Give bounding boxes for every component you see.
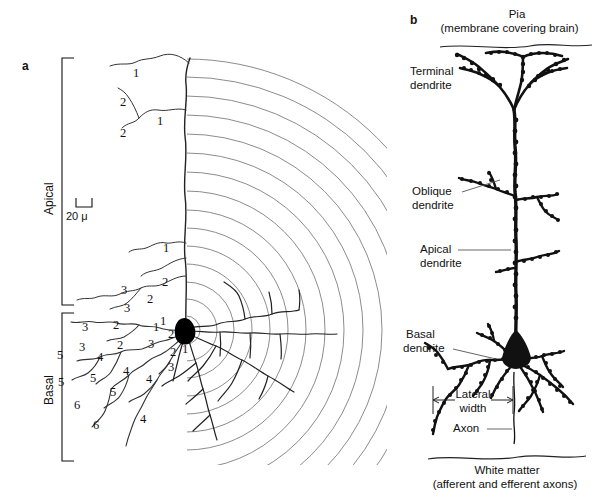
figure-neuron-morphology: a b Apical Basal 20 μ 121212323113223232… (0, 0, 607, 502)
pia-label-line1: Pia (442, 8, 592, 21)
branch-order-number: 6 (74, 398, 80, 413)
branch-order-number: 3 (121, 283, 127, 298)
branch-order-number: 4 (97, 350, 103, 365)
pia-label-line2: (membrane covering brain) (412, 22, 607, 35)
axon-label: Axon (453, 422, 479, 435)
apical-branches (77, 54, 189, 309)
branch-order-number: 1 (153, 320, 159, 335)
sholl-rings (0, 59, 457, 502)
basal-dendrites-b (425, 324, 573, 434)
branch-order-number: 2 (117, 338, 123, 353)
panel-letter-a: a (22, 60, 29, 73)
apical-dendrite-label-line1: Apical (420, 243, 451, 256)
branch-order-number: 2 (120, 95, 126, 110)
branch-order-number: 1 (163, 241, 169, 256)
branch-order-number: 5 (90, 371, 96, 386)
apical-dendrite-label-line2: dendrite (420, 257, 462, 270)
scale-bar-label: 20 μ (66, 210, 88, 222)
soma-panel-a (175, 318, 196, 345)
branch-order-number: 4 (123, 364, 129, 379)
branch-order-number: 6 (93, 418, 99, 433)
branch-order-number: 1 (160, 314, 166, 329)
branch-order-number: 2 (113, 318, 119, 333)
apical-bracket (62, 58, 74, 305)
branch-order-number: 5 (57, 348, 63, 363)
oblique-dendrites-b (459, 172, 559, 272)
axon-b (514, 372, 515, 444)
terminal-dendrite-label-line2: dendrite (410, 79, 452, 92)
branch-order-number: 3 (82, 320, 88, 335)
oblique-dendrite-label-line1: Oblique (412, 185, 452, 198)
branch-order-number: 4 (140, 412, 146, 427)
branch-order-number: 2 (147, 292, 153, 307)
white-matter-line (428, 456, 586, 459)
branch-order-number: 1 (182, 342, 188, 357)
figure-drawing (0, 0, 607, 502)
bracket-label-basal: Basal (42, 375, 56, 405)
branch-order-number: 5 (110, 385, 116, 400)
lateral-width-label-line2: width (447, 402, 499, 415)
branch-order-number: 2 (120, 126, 126, 141)
basal-dendrite-label-line1: Basal (406, 328, 435, 341)
branch-order-number: 1 (133, 66, 139, 81)
lateral-width-label-line1: Lateral (447, 388, 499, 401)
branch-order-number: 1 (157, 114, 163, 129)
basal-dendrite-label-line2: dendrite (403, 342, 445, 355)
oblique-dendrite-label-line2: dendrite (412, 199, 454, 212)
terminal-tuft-b (457, 52, 568, 110)
branch-order-number: 2 (162, 275, 168, 290)
white-matter-label-line2: (afferent and efferent axons) (400, 478, 607, 491)
pia-line (440, 45, 592, 48)
apical-trunk (185, 58, 190, 330)
white-matter-label-line1: White matter (432, 464, 582, 477)
branch-order-number: 2 (170, 345, 176, 360)
branch-order-number: 3 (124, 301, 130, 316)
branch-order-number: 2 (168, 327, 174, 342)
branch-order-number: 5 (58, 375, 64, 390)
branch-order-number: 4 (146, 372, 152, 387)
branch-order-number: 3 (168, 360, 174, 375)
branch-order-number: 3 (79, 340, 85, 355)
scale-bar (76, 198, 92, 207)
branch-order-number: 3 (148, 337, 154, 352)
terminal-dendrite-label-line1: Terminal (410, 65, 453, 78)
bracket-label-apical: Apical (42, 182, 56, 215)
